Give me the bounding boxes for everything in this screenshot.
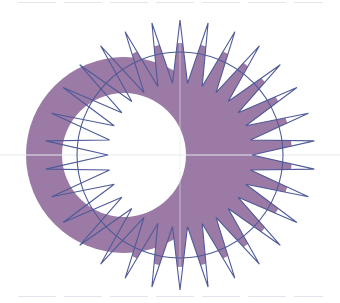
star-circle-diagram [0,0,340,303]
